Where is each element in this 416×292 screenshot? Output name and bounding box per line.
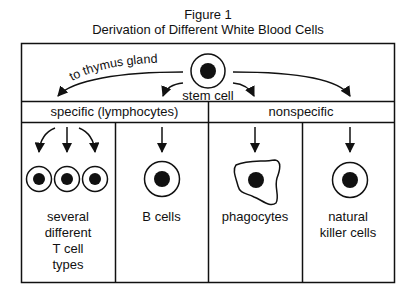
- stem-cell-label: stem cell: [170, 88, 246, 104]
- b-cell-label: B cells: [115, 209, 208, 225]
- phagocyte-label: phagocytes: [208, 209, 302, 225]
- natural-killer-cell-icon: [333, 163, 368, 198]
- category-nonspecific: nonspecific: [208, 104, 394, 120]
- arrow-t-cell-right: [79, 128, 95, 152]
- category-specific: specific (lymphocytes): [21, 104, 208, 120]
- natural-killer-label: natural killer cells: [302, 209, 394, 241]
- b-cell-icon: [145, 162, 180, 197]
- t-cell-label: several different T cell types: [21, 209, 115, 273]
- phagocyte-icon: [234, 160, 279, 205]
- stem-cell-icon: [191, 54, 225, 88]
- thymus-label: to thymus gland: [67, 52, 158, 84]
- arrow-to-natural-killer: [233, 72, 350, 96]
- arrow-t-cell-left: [39, 128, 55, 152]
- t-cell-icons: [27, 167, 108, 192]
